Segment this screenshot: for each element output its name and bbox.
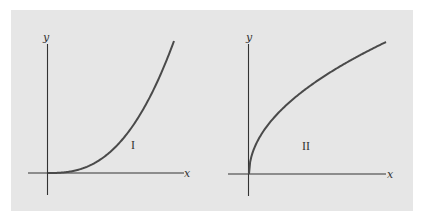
- curve-ii: [249, 42, 386, 174]
- x-axis-label-left: x: [184, 167, 191, 180]
- x-axis-label-right: x: [387, 168, 394, 181]
- plot-left: x y I: [28, 31, 191, 195]
- figure-svg: x y I x y II: [0, 0, 431, 221]
- plot-right: x y II: [228, 31, 394, 196]
- curve-i: [48, 41, 174, 173]
- curve-label-i: I: [131, 138, 135, 152]
- curve-label-ii: II: [302, 139, 310, 153]
- y-axis-label-left: y: [42, 31, 50, 44]
- y-axis-label-right: y: [245, 31, 253, 44]
